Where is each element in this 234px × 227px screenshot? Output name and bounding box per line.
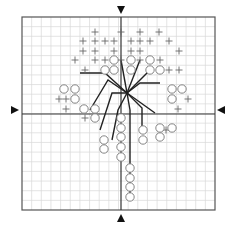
- circle-icon: [146, 56, 154, 64]
- circle-symbols: [60, 56, 186, 201]
- plus-icon: [92, 29, 99, 36]
- plus-icon: [156, 29, 163, 36]
- circle-icon: [178, 85, 186, 93]
- plus-icon: [92, 57, 99, 64]
- plus-icon: [80, 38, 87, 45]
- circle-icon: [117, 124, 125, 132]
- plus-icon: [111, 48, 118, 55]
- plus-icon: [92, 38, 99, 45]
- circle-icon: [117, 114, 125, 122]
- circle-icon: [127, 56, 135, 64]
- leader-line: [80, 73, 127, 93]
- circle-icon: [139, 136, 147, 144]
- circle-icon: [80, 105, 88, 113]
- circle-icon: [117, 143, 125, 151]
- circle-icon: [60, 85, 68, 93]
- circle-icon: [126, 164, 134, 172]
- circle-icon: [168, 124, 176, 132]
- circle-icon: [117, 133, 125, 141]
- circle-icon: [156, 66, 164, 74]
- circle-icon: [126, 183, 134, 191]
- plus-icon: [128, 38, 135, 45]
- circle-icon: [110, 56, 118, 64]
- bottom-arrow-marker-icon: [117, 214, 125, 222]
- plus-icon: [111, 38, 118, 45]
- circle-icon: [100, 136, 108, 144]
- plus-icon: [157, 57, 164, 64]
- plus-icon: [72, 57, 79, 64]
- right-arrow-marker-icon: [217, 106, 225, 114]
- plus-icon: [175, 106, 182, 113]
- circle-icon: [100, 145, 108, 153]
- circle-icon: [168, 85, 176, 93]
- circle-icon: [156, 133, 164, 141]
- grid-diagram: [0, 0, 234, 227]
- circle-icon: [127, 66, 135, 74]
- circle-icon: [110, 66, 118, 74]
- left-arrow-marker-icon: [11, 106, 19, 114]
- plus-icon: [82, 115, 89, 122]
- circle-icon: [91, 105, 99, 113]
- circle-icon: [168, 95, 176, 103]
- plus-icon: [80, 48, 87, 55]
- circle-icon: [139, 126, 147, 134]
- circle-icon: [71, 85, 79, 93]
- plus-icon: [102, 57, 109, 64]
- plus-icon: [92, 48, 99, 55]
- plus-icon: [56, 96, 63, 103]
- circle-icon: [71, 95, 79, 103]
- plus-icon: [128, 48, 135, 55]
- top-arrow-marker-icon: [117, 6, 125, 14]
- plus-icon: [63, 106, 70, 113]
- circle-icon: [117, 153, 125, 161]
- plus-icon: [63, 96, 70, 103]
- circle-icon: [146, 66, 154, 74]
- circle-icon: [126, 174, 134, 182]
- circle-icon: [101, 66, 109, 74]
- circle-icon: [126, 193, 134, 201]
- circle-icon: [156, 124, 164, 132]
- circle-icon: [91, 114, 99, 122]
- leader-line: [127, 93, 155, 113]
- plus-icon: [185, 96, 192, 103]
- plus-icon: [102, 38, 109, 45]
